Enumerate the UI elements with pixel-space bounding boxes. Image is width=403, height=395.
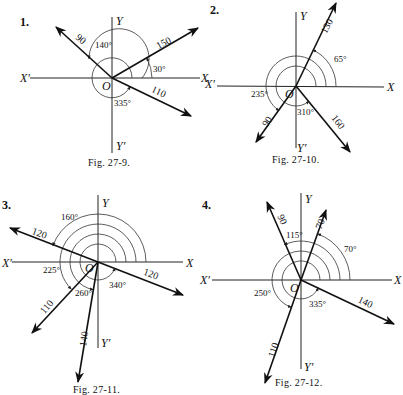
- angle-label: 70°: [344, 244, 357, 254]
- vector-arrow: [98, 262, 183, 295]
- figure-caption: Fig. 27-12.: [275, 377, 322, 388]
- angle-label: 160°: [61, 212, 79, 222]
- y-neg-axis-label: Y′: [304, 360, 314, 374]
- angle-label: 340°: [109, 280, 127, 290]
- angle-label: 260°: [75, 288, 93, 298]
- angle-label: 335°: [309, 299, 327, 309]
- figure-caption: Fig. 27-10.: [272, 154, 319, 165]
- angle-arc-140: [89, 29, 149, 78]
- angle-label: 225°: [43, 265, 61, 275]
- angle-label: 140°: [95, 40, 113, 50]
- vector-magnitude: 150: [154, 34, 172, 51]
- angle-label: 30°: [153, 64, 166, 74]
- figure-number: 3.: [2, 198, 11, 212]
- x-neg-axis-label: X′: [199, 273, 210, 287]
- figure-number: 4.: [202, 198, 211, 212]
- vector-diagrams: 1. Y Y′ X′ X O 90 150 110 140° 30° 335° …: [0, 0, 403, 395]
- x-axis: [217, 86, 384, 87]
- vector-arrow: [112, 78, 191, 116]
- vector-magnitude: 130: [318, 17, 335, 35]
- y-axis-label: Y: [305, 192, 313, 206]
- angle-label: 235°: [251, 89, 269, 99]
- origin-label: O: [102, 79, 111, 93]
- figure-4: 4. Y Y′ X′ X O 90 70 140 110 115° 70° 33…: [199, 192, 402, 388]
- vector-magnitude: 120: [31, 225, 49, 240]
- figure-3: 3. Y Y′ X′ X O 120 120 110 140 160° 340°…: [1, 195, 194, 395]
- x-axis-label: X: [185, 256, 194, 270]
- vector-magnitude: 70: [313, 217, 327, 230]
- angle-label: 250°: [254, 288, 272, 298]
- vector-arrow: [10, 228, 98, 262]
- figure-number: 1.: [20, 15, 29, 29]
- figure-2: 2. Y Y′ X′ X O 130 90 160 65° 235° 310° …: [204, 3, 395, 165]
- y-axis-label: Y: [300, 9, 308, 23]
- figure-caption: Fig. 27-9.: [88, 157, 130, 168]
- vector-magnitude: 90: [260, 114, 275, 129]
- figure-caption: Fig. 27-11.: [73, 384, 120, 395]
- x-neg-axis-label: X′: [1, 256, 12, 270]
- angle-arc-70: [318, 234, 350, 280]
- vector-magnitude: 110: [38, 298, 56, 316]
- angle-label: 65°: [334, 54, 347, 64]
- figure-number: 2.: [210, 3, 219, 17]
- y-axis-label: Y: [102, 196, 110, 210]
- x-neg-axis-label: X′: [19, 71, 30, 85]
- y-neg-axis-label: Y′: [101, 336, 111, 350]
- x-axis-label: X: [386, 80, 395, 94]
- vector-magnitude: 120: [142, 266, 160, 281]
- angle-label: 310°: [297, 107, 315, 117]
- y-neg-axis-label: Y′: [297, 141, 307, 155]
- y-axis-label: Y: [116, 14, 124, 28]
- y-neg-axis-label: Y′: [116, 139, 126, 153]
- angle-arc-65: [313, 50, 336, 86]
- angle-label: 335°: [114, 98, 132, 108]
- figure-1: 1. Y Y′ X′ X O 90 150 110 140° 30° 335° …: [19, 14, 209, 168]
- angle-label: 115°: [286, 230, 303, 240]
- x-axis-label: X: [393, 273, 402, 287]
- x-neg-axis-label: X′: [204, 77, 215, 91]
- vector-magnitude: 160: [329, 113, 347, 132]
- vector-magnitude: 140: [77, 331, 90, 347]
